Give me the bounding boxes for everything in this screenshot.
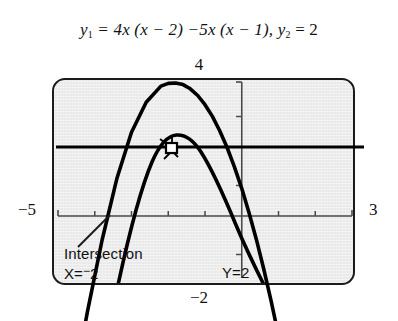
plot-layer (0, 0, 398, 321)
cursor-y-readout: Y=2 (222, 264, 249, 281)
cursor-x-negative-sign: − (83, 264, 90, 278)
cursor-x-prefix: X= (64, 265, 83, 282)
x-axis (58, 210, 352, 216)
curve-y1 (73, 83, 286, 321)
cursor-x-readout: X=−2 (64, 264, 99, 282)
calculator-figure: y1 = 4x (x − 2) −5x (x − 1), y2 = 2 4 −5… (0, 0, 398, 321)
intersection-mode-label: Intersection (64, 245, 143, 262)
cursor-x-value: 2 (90, 265, 98, 282)
